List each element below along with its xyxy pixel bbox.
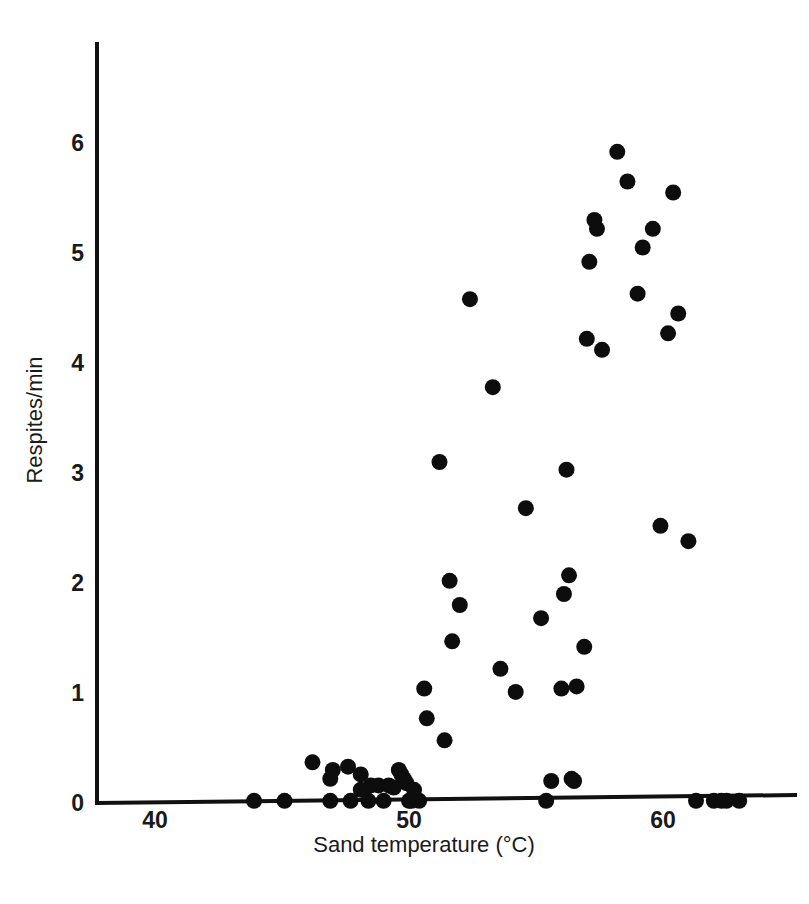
data-point	[665, 185, 681, 201]
data-point	[508, 684, 524, 700]
data-point	[645, 221, 661, 237]
data-point	[558, 462, 574, 478]
data-point	[553, 681, 569, 697]
x-axis-title: Sand temperature (°C)	[313, 832, 535, 857]
data-point	[731, 793, 747, 809]
plot-canvas: 0123456 405060 Respites/min Sand tempera…	[0, 0, 809, 904]
data-point	[680, 533, 696, 549]
data-point	[579, 331, 595, 347]
data-point	[444, 633, 460, 649]
data-point	[576, 639, 592, 655]
y-tick-label-4: 4	[71, 350, 84, 376]
y-tick-label-6: 6	[71, 130, 84, 156]
data-point	[566, 773, 582, 789]
data-point-group	[246, 144, 747, 809]
data-point	[411, 793, 427, 809]
y-tick-label-1: 1	[71, 680, 84, 706]
scatter-plot-figure: 0123456 405060 Respites/min Sand tempera…	[0, 0, 809, 904]
data-point	[556, 586, 572, 602]
data-point	[416, 681, 432, 697]
y-tick-label-0: 0	[71, 790, 84, 816]
y-tick-label-2: 2	[71, 570, 84, 596]
y-axis-title: Respites/min	[22, 356, 47, 483]
data-point	[543, 773, 559, 789]
data-point	[442, 573, 458, 589]
data-point	[594, 342, 610, 358]
x-tick-label-40: 40	[142, 807, 168, 833]
data-point	[630, 286, 646, 302]
data-point	[376, 793, 392, 809]
data-point	[277, 793, 293, 809]
data-point	[452, 597, 468, 613]
data-point	[518, 500, 534, 516]
data-point	[569, 678, 585, 694]
data-point	[538, 793, 554, 809]
x-tick-label-50: 50	[396, 807, 422, 833]
x-tick-label-group: 405060	[142, 807, 676, 833]
data-point	[660, 325, 676, 341]
data-point	[561, 567, 577, 583]
data-point	[533, 610, 549, 626]
y-tick-label-3: 3	[71, 460, 84, 486]
data-point	[485, 379, 501, 395]
data-point	[619, 174, 635, 190]
data-point	[437, 732, 453, 748]
x-tick-label-60: 60	[650, 807, 676, 833]
data-point	[322, 793, 338, 809]
data-point	[492, 661, 508, 677]
data-point	[325, 762, 341, 778]
data-point	[635, 240, 651, 256]
data-point	[589, 221, 605, 237]
data-point	[688, 793, 704, 809]
data-point	[581, 254, 597, 270]
data-point	[304, 754, 320, 770]
axes-group	[97, 44, 795, 803]
data-point	[431, 454, 447, 470]
data-point	[609, 144, 625, 160]
data-point	[419, 710, 435, 726]
data-point	[246, 793, 262, 809]
data-point	[360, 793, 376, 809]
data-point	[670, 306, 686, 322]
data-point	[462, 291, 478, 307]
y-tick-label-group: 0123456	[71, 130, 84, 816]
data-point	[652, 518, 668, 534]
y-tick-label-5: 5	[71, 240, 84, 266]
